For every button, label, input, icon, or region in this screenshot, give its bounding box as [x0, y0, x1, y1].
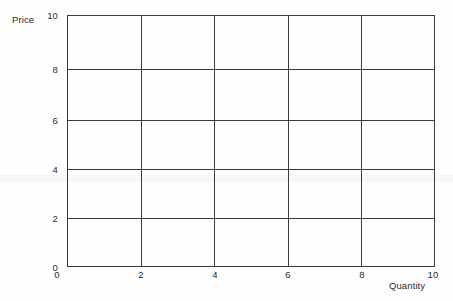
x-tick-label-6: 6	[277, 270, 299, 280]
x-tick-label-8: 8	[351, 270, 373, 280]
grid-lines-vertical	[68, 15, 435, 267]
y-tick-label-4: 4	[36, 165, 58, 175]
y-tick-label-6: 6	[36, 116, 58, 126]
chart-container: Price Quantity 10 8 6 4 2 0 0 2 4 6 8 10	[0, 0, 453, 301]
y-axis-title: Price	[12, 15, 34, 25]
x-tick-label-10: 10	[422, 270, 444, 280]
plot-area	[0, 0, 453, 301]
y-tick-label-2: 2	[36, 214, 58, 224]
y-tick-label-8: 8	[36, 65, 58, 75]
x-axis-title: Quantity	[389, 281, 425, 291]
grid-lines-horizontal	[67, 16, 435, 267]
y-tick-label-10: 10	[36, 11, 58, 21]
x-tick-label-2: 2	[130, 270, 152, 280]
x-tick-label-4: 4	[204, 270, 226, 280]
x-tick-label-0: 0	[46, 270, 68, 280]
